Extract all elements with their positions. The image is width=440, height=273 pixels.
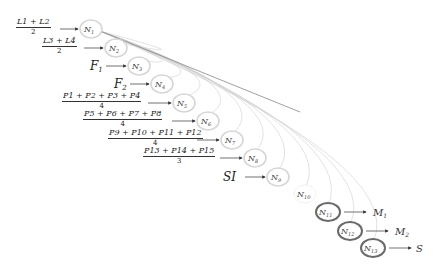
input-label-n8: P13 + P14 + P15 3	[143, 147, 215, 165]
numerator: L1 + L2	[16, 18, 51, 28]
numerator: P13 + P14 + P15	[143, 147, 215, 157]
numerator: P5 + P6 + P7 + P8	[83, 110, 162, 120]
numerator: L3 + L4	[42, 37, 77, 47]
denominator: 4	[120, 120, 124, 128]
denominator: 3	[177, 157, 181, 165]
output-label-m2: M2	[394, 226, 409, 238]
input-label-f2: F2	[113, 77, 127, 92]
output-label-m1: M1	[372, 207, 387, 219]
node-n13: N13	[361, 239, 385, 257]
denominator: 2	[31, 28, 35, 36]
node-n2: N2	[105, 39, 127, 57]
numerator: P9 + P10 + P11 + P12	[108, 129, 203, 139]
node-n4: N4	[151, 75, 173, 93]
node-n8: N8	[244, 149, 266, 167]
node-n12: N12	[338, 222, 362, 240]
node-n5: N5	[173, 94, 195, 112]
node-n7: N7	[221, 131, 243, 149]
node-n9: N9	[267, 168, 289, 186]
input-label-n2: L3 + L4 2	[42, 37, 77, 55]
denominator: 2	[57, 47, 61, 55]
output-label-s: S	[416, 243, 423, 254]
numerator: P1 + P2 + P3 + P4	[62, 92, 141, 102]
input-label-n5: P1 + P2 + P3 + P4 4	[62, 92, 141, 110]
node-n3: N3	[128, 57, 150, 75]
input-label-n6: P5 + P6 + P7 + P8 4	[83, 110, 162, 128]
node-n1: N1	[80, 20, 102, 38]
input-label-n7: P9 + P10 + P11 + P12 4	[108, 129, 203, 147]
node-n10: N10	[294, 185, 316, 203]
node-n11: N11	[316, 203, 340, 221]
input-label-si: SI	[223, 170, 236, 184]
input-label-n1: L1 + L2 2	[16, 18, 51, 36]
input-label-f1: F1	[89, 59, 103, 74]
